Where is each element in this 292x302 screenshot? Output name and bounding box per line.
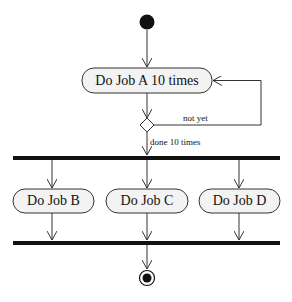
- guard-done-10-times: done 10 times: [150, 137, 201, 147]
- guard-not-yet: not yet: [183, 113, 208, 123]
- decision-node: [140, 118, 154, 132]
- job-c-label: Do Job C: [106, 189, 188, 213]
- job-a-label: Do Job A 10 times: [82, 68, 212, 93]
- initial-node: [140, 15, 155, 30]
- fork-bar: [13, 156, 280, 160]
- activity-diagram-canvas: [0, 0, 292, 302]
- job-d-label: Do Job D: [199, 189, 280, 213]
- job-b-label: Do Job B: [13, 189, 94, 213]
- final-node-core: [143, 274, 152, 283]
- join-bar: [13, 241, 280, 245]
